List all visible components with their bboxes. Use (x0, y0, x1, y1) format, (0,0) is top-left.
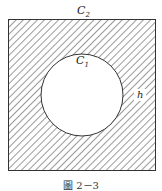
inner-label-c1: C1 (76, 55, 89, 69)
outer-label-c2: C2 (77, 5, 90, 19)
figure-caption: 圖 2－3 (0, 177, 162, 191)
gap-label-h: h (137, 90, 143, 100)
